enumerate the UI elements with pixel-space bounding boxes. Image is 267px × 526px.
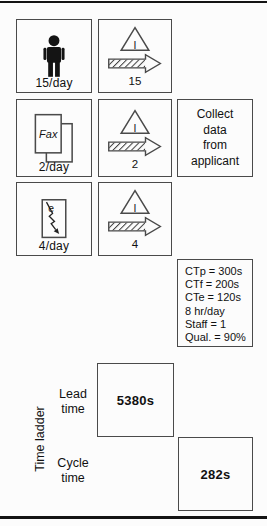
process-name-line: applicant xyxy=(191,154,239,170)
lead-time-value: 5380s xyxy=(117,393,155,408)
hatched-push-arrow-icon xyxy=(107,216,163,237)
inventory-triangle-icon: I xyxy=(119,26,151,52)
inventory-count: 15 xyxy=(129,75,142,87)
bottom-rule xyxy=(0,516,267,519)
inventory-triangle-icon: I xyxy=(119,189,151,215)
inventory-count: 2 xyxy=(132,158,138,170)
cycle-time-value: 282s xyxy=(200,467,230,482)
inventory-letter: I xyxy=(134,123,137,134)
data-line: Qual. = 90% xyxy=(185,331,248,344)
process-box: Collect data from applicant xyxy=(177,99,253,177)
process-name-line: data xyxy=(203,123,226,139)
data-line: CTf = 200s xyxy=(185,278,248,291)
inventory-box-3: I 4 xyxy=(98,182,172,256)
top-rule xyxy=(0,1,267,3)
person-rate-label: 15/day xyxy=(17,76,91,90)
hatched-push-arrow-icon xyxy=(107,53,163,74)
email-rate-label: 4/day xyxy=(17,239,91,253)
data-line: 8 hr/day xyxy=(185,305,248,318)
source-box-person: 15/day xyxy=(16,19,92,93)
inventory-box-1: I 15 xyxy=(98,19,172,93)
process-data-box: CTp = 300s CTf = 200s CTe = 120s 8 hr/da… xyxy=(177,259,253,347)
fax-rate-label: 2/day xyxy=(17,160,91,174)
cycle-time-label: Cycle time xyxy=(47,456,99,486)
data-line: CTe = 120s xyxy=(185,291,248,304)
time-ladder-label: Time ladder xyxy=(33,406,47,472)
inventory-triangle-icon: I xyxy=(119,109,151,135)
data-line: Staff = 1 xyxy=(185,318,248,331)
source-box-fax: Fax 2/day xyxy=(16,99,92,177)
inventory-box-2: I 2 xyxy=(98,99,172,177)
source-box-email: e 4/day xyxy=(16,182,92,256)
fax-doc-label: Fax xyxy=(39,128,58,140)
data-line: CTp = 300s xyxy=(185,265,248,278)
inventory-letter: I xyxy=(134,40,137,51)
inventory-count: 4 xyxy=(132,238,138,250)
vsm-diagram-canvas: { "palette": { "line": "#4a4a4a", "rule"… xyxy=(0,0,267,526)
inventory-letter: I xyxy=(134,203,137,214)
process-name-line: Collect xyxy=(197,107,234,123)
cycle-time-box: 282s xyxy=(178,437,253,511)
hatched-push-arrow-icon xyxy=(107,136,163,157)
process-name-line: from xyxy=(203,138,227,154)
lead-time-box: 5380s xyxy=(97,363,174,437)
lead-time-label: Lead time xyxy=(47,387,99,417)
